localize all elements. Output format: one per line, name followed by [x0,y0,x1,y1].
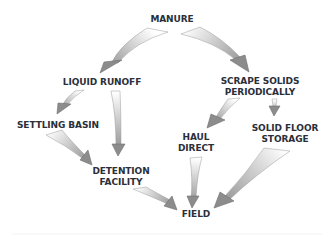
node-label-line1: SCRAPE SOLIDS [221,76,300,87]
node-label: MANURE [150,14,193,25]
node-field: FIELD [182,209,210,220]
node-label-line2: FACILITY [92,177,149,188]
arrow-detention-to-field [133,187,177,210]
arrow-scrape-solids-to-solid-floor-storage [269,99,280,116]
node-manure: MANURE [150,14,193,25]
node-label: SETTLING BASIN [17,120,99,131]
node-label: LIQUID RUNOFF [63,77,141,88]
node-label-line1: SOLID FLOOR [252,123,319,134]
node-label-line2: PERIODICALLY [221,87,300,98]
node-scrape-solids-periodically: SCRAPE SOLIDS PERIODICALLY [221,76,300,97]
node-label-line1: DETENTION [92,166,149,177]
node-label: FIELD [182,209,210,220]
arrow-manure-to-liquid-runoff [100,28,168,73]
node-settling-basin: SETTLING BASIN [17,120,99,131]
arrow-solid-floor-storage-to-field [214,148,290,208]
arrow-liquid-runoff-to-detention [111,91,125,156]
node-haul-direct: HAUL DIRECT [178,132,214,153]
node-detention-facility: DETENTION FACILITY [92,166,149,187]
arrow-manure-to-scrape-solids [181,27,249,72]
arrow-liquid-runoff-to-settling-basin [57,90,84,114]
node-solid-floor-storage: SOLID FLOOR STORAGE [252,123,319,144]
node-label-line2: STORAGE [252,134,319,145]
node-label-line2: DIRECT [178,143,214,154]
arrow-settling-basin-to-detention [46,130,92,165]
node-liquid-runoff: LIQUID RUNOFF [63,77,141,88]
arrows-layer [0,0,333,236]
node-label-line1: HAUL [178,132,214,143]
arrow-haul-direct-to-field [187,157,202,208]
manure-flow-diagram: MANURE LIQUID RUNOFF SCRAPE SOLIDS PERIO… [0,0,333,236]
arrow-scrape-solids-to-haul-direct [207,98,240,128]
